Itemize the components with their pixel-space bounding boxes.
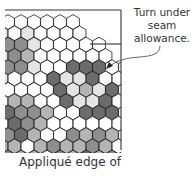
callout-label: Turn under seam allowance. bbox=[129, 6, 195, 45]
callout-line-2: seam bbox=[129, 19, 195, 32]
callout-line-3: allowance. bbox=[129, 32, 195, 45]
hexagon-grid bbox=[0, 15, 144, 165]
hexagon-patch bbox=[125, 116, 138, 131]
figure-caption: Appliqué edge of bbox=[0, 155, 140, 169]
callout-line-1: Turn under bbox=[129, 6, 195, 19]
hexagon-patch bbox=[132, 82, 145, 97]
hexagon-patch bbox=[132, 128, 145, 143]
hexagon-patch bbox=[125, 139, 138, 154]
hexagon-patch bbox=[125, 94, 138, 109]
hexagon-patch bbox=[132, 105, 145, 120]
